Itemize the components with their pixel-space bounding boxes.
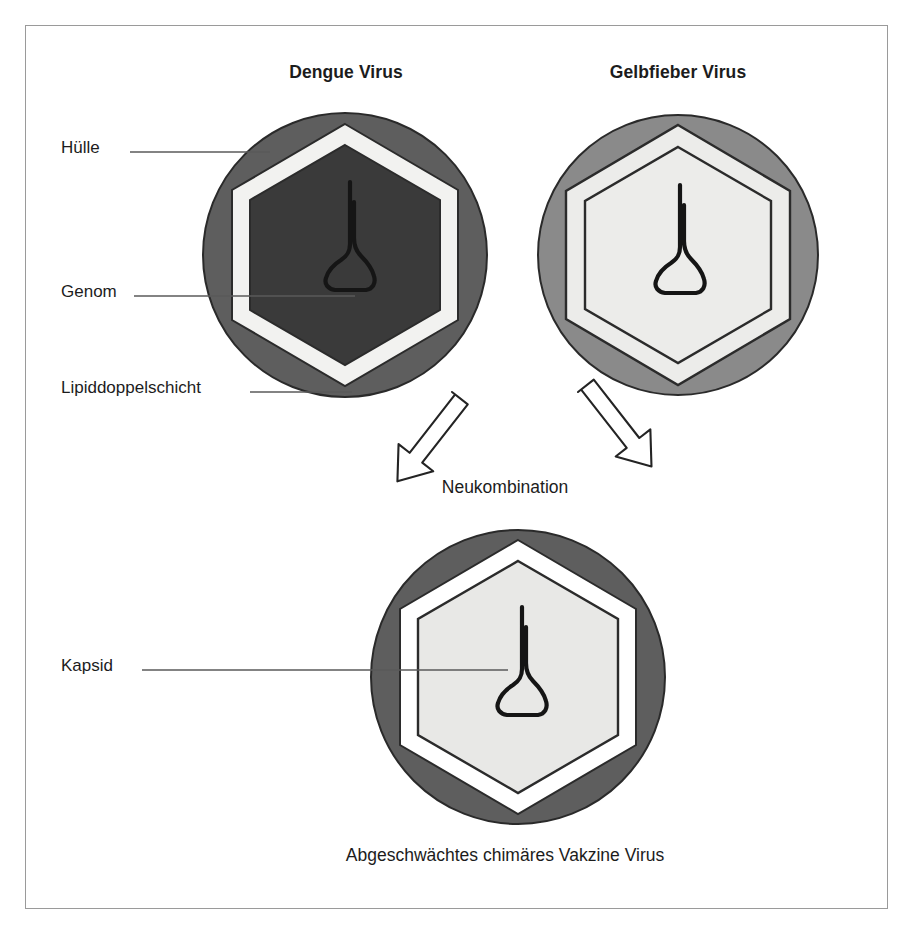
figure-root: Dengue Virus Gelbfieber Virus Hülle Geno…: [0, 0, 915, 940]
callout-label-capsid: Kapsid: [61, 656, 113, 676]
virus-title-yellow-fever: Gelbfieber Virus: [578, 62, 778, 83]
diagram-canvas: [0, 0, 915, 940]
callout-label-lipid-bilayer: Lipiddoppelschicht: [61, 378, 201, 398]
callout-label-genome: Genom: [61, 282, 117, 302]
callout-label-envelope: Hülle: [61, 138, 100, 158]
virus-particle-chimera: [371, 530, 665, 824]
virus-particle-yellow-fever: [538, 115, 818, 395]
figure-caption: Abgeschwächtes chimäres Vakzine Virus: [255, 845, 755, 866]
virus-particle-dengue: [203, 113, 487, 397]
virus-title-dengue: Dengue Virus: [246, 62, 446, 83]
process-label-recombination: Neukombination: [355, 477, 655, 498]
